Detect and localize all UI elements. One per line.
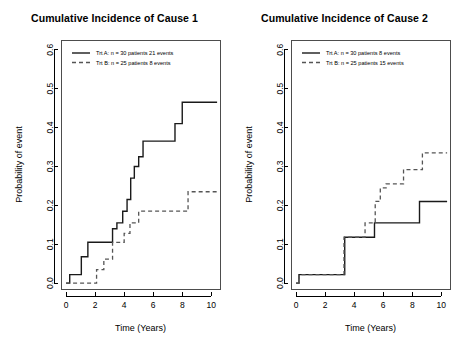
y-tick-label: 0.2 xyxy=(45,199,55,211)
y-axis: 0.00.10.20.30.40.50.6 xyxy=(45,44,58,290)
plot-area-cause-2: 0.00.10.20.30.40.50.6Probability of even… xyxy=(230,0,459,363)
curve-trt-a xyxy=(66,102,217,283)
x-tick-label: 10 xyxy=(207,300,217,310)
chart-panel-cause-2: Cumulative Incidence of Cause 2 0.00.10.… xyxy=(230,0,459,363)
y-tick-label: 0.2 xyxy=(275,199,285,211)
y-tick-label: 0.3 xyxy=(45,160,55,172)
plot-frame xyxy=(61,40,220,289)
x-tick-label: 6 xyxy=(381,300,386,310)
y-tick-label: 0.3 xyxy=(275,160,285,172)
x-axis: 0246810 xyxy=(294,292,447,310)
x-axis: 0246810 xyxy=(64,292,217,310)
y-axis-title: Probability of event xyxy=(244,126,254,203)
curve-trt-b xyxy=(296,153,447,283)
y-tick-label: 0.1 xyxy=(275,238,285,250)
y-axis-title: Probability of event xyxy=(14,126,24,203)
legend: Trt A: n = 30 patients 8 eventsTrt B: n … xyxy=(302,50,404,66)
x-tick-label: 8 xyxy=(410,300,415,310)
curve-trt-b xyxy=(66,192,217,283)
x-axis-title: Time (Years) xyxy=(115,323,166,333)
plot-area-cause-1: 0.00.10.20.30.40.50.6Probability of even… xyxy=(0,0,229,363)
x-tick-label: 10 xyxy=(437,300,447,310)
y-tick-label: 0.0 xyxy=(45,277,55,289)
y-tick-label: 0.5 xyxy=(45,82,55,94)
y-tick-label: 0.1 xyxy=(45,238,55,250)
y-axis: 0.00.10.20.30.40.50.6 xyxy=(275,44,288,290)
x-tick-label: 2 xyxy=(323,300,328,310)
y-tick-label: 0.6 xyxy=(275,44,285,56)
x-axis-title: Time (Years) xyxy=(345,323,396,333)
x-tick-label: 4 xyxy=(352,300,357,310)
plot-frame xyxy=(291,40,450,289)
curve-trt-a xyxy=(296,201,447,283)
legend-label: Trt A: n = 30 patients 21 events xyxy=(96,50,174,56)
x-tick-label: 4 xyxy=(122,300,127,310)
y-tick-label: 0.4 xyxy=(275,121,285,133)
figure-container: Cumulative Incidence of Cause 1 0.00.10.… xyxy=(0,0,459,363)
x-tick-label: 0 xyxy=(294,300,299,310)
x-tick-label: 6 xyxy=(151,300,156,310)
x-tick-label: 8 xyxy=(180,300,185,310)
y-tick-label: 0.5 xyxy=(275,82,285,94)
chart-panel-cause-1: Cumulative Incidence of Cause 1 0.00.10.… xyxy=(0,0,229,363)
legend-label: Trt B: n = 25 patients 15 events xyxy=(326,60,404,66)
legend-label: Trt B: n = 25 patients 8 events xyxy=(96,60,171,66)
y-tick-label: 0.4 xyxy=(45,121,55,133)
x-tick-label: 2 xyxy=(93,300,98,310)
y-tick-label: 0.0 xyxy=(275,277,285,289)
x-tick-label: 0 xyxy=(64,300,69,310)
y-tick-label: 0.6 xyxy=(45,44,55,56)
legend-label: Trt A: n = 30 patients 8 events xyxy=(326,50,400,56)
legend: Trt A: n = 30 patients 21 eventsTrt B: n… xyxy=(72,50,174,66)
